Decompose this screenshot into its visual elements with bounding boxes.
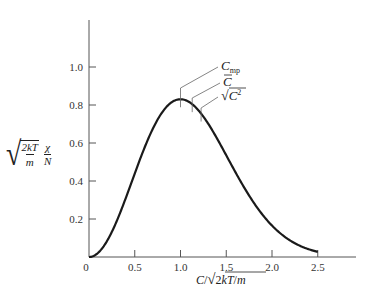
y-tick-label: 0.6	[69, 137, 83, 149]
y-chi-fraction: χ N	[44, 141, 51, 167]
x-axis-label: C/√2kT/m	[196, 271, 266, 287]
chart-canvas: 00.51.01.52.02.50.20.40.60.81.0 CmpC√C2 …	[0, 0, 374, 302]
annotations: CmpC√C2	[181, 58, 247, 122]
y-tick-label: 1.0	[69, 61, 83, 73]
annotation-label: Cmp	[221, 58, 240, 75]
y-numerator: 2kT	[20, 140, 39, 153]
x-tick-label: 1.0	[174, 261, 188, 273]
x-tick-label: 1.5	[219, 261, 233, 273]
y-sqrt-fraction: 2kT m	[20, 140, 39, 167]
annotation-label: √C2	[221, 88, 241, 103]
x-axis-label-text: C/√2kT/m	[196, 271, 246, 287]
y-denominator: m	[26, 154, 34, 168]
distribution-curve	[89, 99, 318, 257]
y-tick-label: 0.4	[69, 175, 83, 187]
annotation-label: C	[223, 74, 232, 89]
axes	[89, 20, 356, 257]
x-tick-label: 2.0	[265, 261, 279, 273]
y-axis-label: √ 2kT m χ N	[6, 140, 51, 168]
y-tick-label: 0.8	[69, 99, 83, 111]
y-N: N	[44, 154, 51, 168]
x-tick-label: 2.5	[311, 261, 325, 273]
y-chi: χ	[45, 141, 50, 154]
x-tick-label: 0	[83, 261, 89, 273]
sqrt-symbol: √	[6, 137, 21, 171]
x-tick-label: 0.5	[128, 261, 142, 273]
y-tick-label: 0.2	[69, 213, 83, 225]
